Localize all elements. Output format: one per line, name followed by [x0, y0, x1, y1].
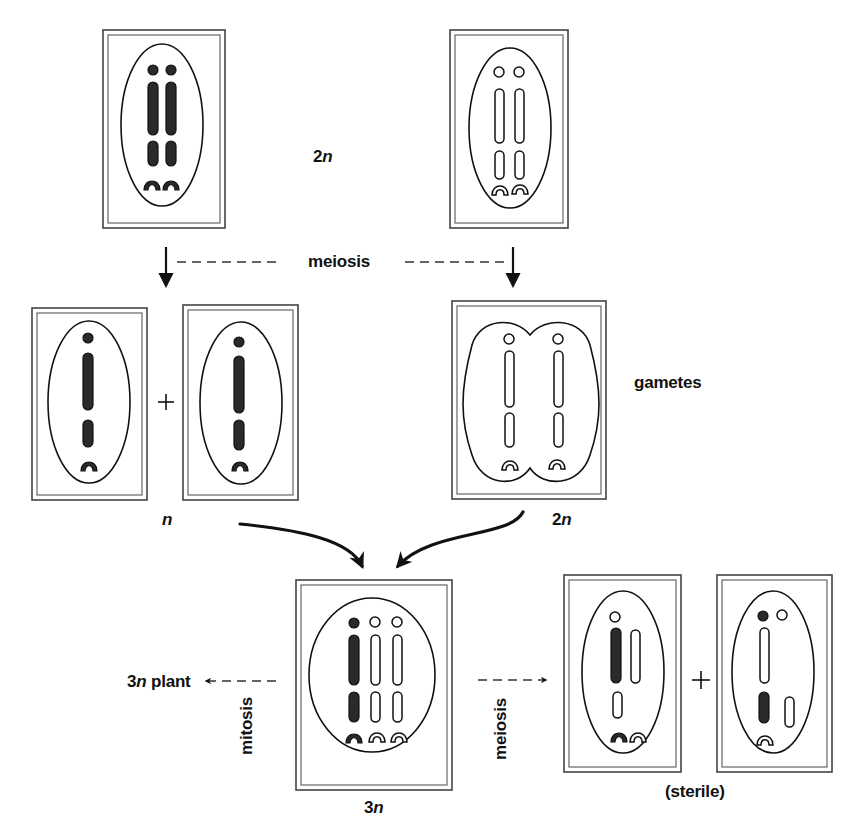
fusion-arrow-right — [398, 512, 523, 566]
label-3n-plant: 3n plant — [127, 672, 191, 692]
cell-zygote-3n — [296, 580, 452, 790]
label-3n: 3n — [364, 798, 383, 818]
polyploidy-diagram — [0, 0, 862, 833]
cell-sterile-gamete-2 — [717, 575, 832, 772]
label-meiosis-bottom: meiosis — [491, 698, 511, 760]
label-meiosis-top: meiosis — [308, 252, 370, 272]
cell-parent-dark — [103, 30, 225, 228]
cell-parent-light — [450, 30, 568, 228]
label-gametes: gametes — [634, 373, 702, 393]
cell-gamete-n-2 — [183, 305, 298, 500]
label-sterile: (sterile) — [665, 782, 725, 802]
plus-sign-top — [158, 394, 174, 410]
label-2n-top: 2n — [313, 147, 332, 167]
cell-gamete-n-1 — [32, 308, 147, 500]
plus-sign-bottom — [692, 671, 710, 689]
cell-sterile-gamete-1 — [564, 575, 681, 772]
fusion-arrow-left — [240, 524, 362, 566]
label-2n-gamete: 2n — [552, 510, 571, 530]
cell-gamete-2n — [452, 301, 606, 499]
label-mitosis: mitosis — [237, 697, 257, 755]
label-n: n — [162, 510, 172, 530]
